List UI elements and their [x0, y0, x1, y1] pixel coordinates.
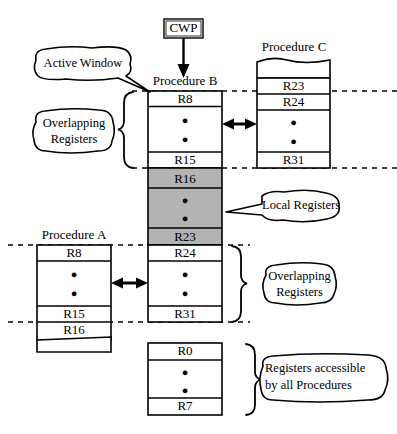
- procedure-c-row-r31: R31: [257, 153, 330, 166]
- procedure-b-local-row-dot-2: ●: [148, 213, 222, 224]
- procedure-b-row-r31: R31: [148, 307, 222, 320]
- global-row-r7: R7: [148, 399, 222, 412]
- overlap-arrow-a-b-icon: [111, 278, 148, 289]
- procedure-b-row-r15: R15: [148, 153, 222, 166]
- procedure-c-row-dot-1: ●: [257, 117, 330, 128]
- callout-global-registers-line2: by all Procedures: [265, 379, 383, 392]
- procedure-b-row-r24: R24: [148, 246, 222, 259]
- brace-overlapping-top: [118, 92, 133, 168]
- callout-overlapping-top-line1: Overlapping: [35, 117, 113, 130]
- procedure-a-row-r8: R8: [37, 246, 111, 259]
- callout-overlapping-bottom-line2: Registers: [260, 286, 339, 299]
- callout-overlapping-bottom-line1: Overlapping: [260, 270, 339, 283]
- procedure-b-row-dot-3: ●: [148, 269, 222, 280]
- procedure-b-local-row-r23: R23: [148, 230, 222, 243]
- brace-global: [246, 344, 261, 415]
- overlap-arrow-b-c-icon: [222, 119, 257, 130]
- procedure-b-row-dot-2: ●: [148, 134, 222, 145]
- register-window-diagram: CWP Procedure B Procedure C Procedure A …: [0, 0, 397, 434]
- procedure-a-row-dot-1: ●: [37, 269, 111, 280]
- procedure-a-row-r16: R16: [37, 323, 111, 336]
- procedure-c-title: Procedure C: [248, 40, 340, 53]
- global-row-r0: R0: [148, 344, 222, 357]
- procedure-b-row-r8: R8: [148, 92, 222, 105]
- procedure-a-row-dot-2: ●: [37, 288, 111, 299]
- cwp-arrow-icon: [178, 38, 190, 78]
- callout-overlapping-top-line2: Registers: [35, 133, 113, 146]
- procedure-a-row-r15: R15: [37, 307, 111, 320]
- cwp-label: CWP: [164, 21, 203, 34]
- procedure-c-row-dot-2: ●: [257, 136, 330, 147]
- procedure-b-title: Procedure B: [140, 74, 230, 87]
- callout-local-registers-label: Local Registers: [262, 199, 340, 212]
- global-row-dot-2: ●: [148, 385, 222, 396]
- procedure-b-local-row-r16: R16: [148, 172, 222, 185]
- procedure-a-title: Procedure A: [29, 228, 119, 241]
- procedure-b-row-dot-4: ●: [148, 288, 222, 299]
- procedure-c-row-r24: R24: [257, 95, 330, 108]
- brace-overlapping-bottom: [232, 246, 247, 322]
- procedure-b-local-row-dot-1: ●: [148, 195, 222, 206]
- procedure-b-row-dot-1: ●: [148, 115, 222, 126]
- callout-global-registers-line1: Registers accessible: [265, 362, 383, 375]
- callout-active-window-label: Active Window: [36, 57, 130, 70]
- procedure-c-row-r23: R23: [257, 79, 330, 92]
- global-row-dot-1: ●: [148, 367, 222, 378]
